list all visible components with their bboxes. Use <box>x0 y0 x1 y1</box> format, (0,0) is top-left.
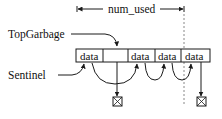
num-used-label: num_used <box>108 3 156 15</box>
cell-3-text: data <box>158 50 176 62</box>
linked-list-diagram: num_used TopGarbage Sentinel data data d… <box>0 0 222 119</box>
link-arc-2-to-3 <box>145 63 164 80</box>
num-used-range: num_used <box>77 3 184 15</box>
link-arc-0-to-2 <box>92 63 137 84</box>
cell-2-text: data <box>131 50 149 62</box>
cell-4-text: data <box>185 50 203 62</box>
sentinel-label: Sentinel <box>8 69 46 81</box>
null-terminator-icon <box>197 97 206 106</box>
cell-0-text: data <box>80 50 98 62</box>
sentinel-arrow <box>58 64 84 75</box>
null-terminator-icon <box>113 97 122 106</box>
top-garbage-arrow <box>71 34 117 46</box>
top-garbage-label: TopGarbage <box>8 28 65 41</box>
cell-row: data data data data <box>76 49 210 62</box>
link-arc-3-to-4 <box>172 63 191 80</box>
